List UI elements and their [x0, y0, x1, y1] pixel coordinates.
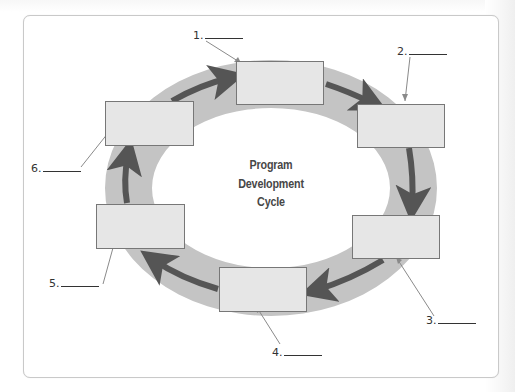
cycle-title-line-3: Cycle: [215, 193, 327, 212]
stage-label-3: 3.: [426, 314, 476, 327]
answer-blank-6[interactable]: [43, 162, 81, 172]
leader-line-1: [206, 41, 241, 63]
answer-blank-3[interactable]: [438, 314, 476, 324]
stage-label-4: 4.: [272, 346, 322, 359]
stage-label-6: 6.: [31, 162, 81, 175]
stage-number-2: 2.: [397, 45, 408, 58]
stage-label-2: 2.: [397, 45, 447, 58]
stage-box-2[interactable]: [357, 104, 445, 148]
stage-box-3[interactable]: [352, 215, 440, 259]
stage-number-3: 3.: [426, 314, 437, 327]
answer-blank-4[interactable]: [284, 346, 322, 356]
stage-number-5: 5.: [49, 277, 60, 290]
answer-blank-5[interactable]: [61, 277, 99, 287]
cycle-title-line-1: Program: [215, 156, 327, 175]
stage-label-1: 1.: [193, 29, 243, 42]
stage-number-1: 1.: [193, 29, 204, 42]
stage-box-4[interactable]: [219, 267, 307, 312]
stage-box-1[interactable]: [236, 61, 324, 105]
answer-blank-2[interactable]: [409, 45, 447, 55]
cycle-title: Program Development Cycle: [215, 156, 327, 212]
stage-box-5[interactable]: [96, 204, 185, 249]
stage-box-6[interactable]: [105, 101, 194, 146]
flow-arrow-2-to-3: [409, 148, 413, 205]
stage-number-4: 4.: [272, 346, 283, 359]
stage-number-6: 6.: [31, 162, 42, 175]
leader-line-3: [396, 257, 434, 316]
stage-label-5: 5.: [49, 277, 99, 290]
flow-arrow-5-to-6: [125, 155, 128, 203]
leader-arrowhead-2: [402, 94, 408, 101]
cycle-title-line-2: Development: [215, 175, 327, 194]
answer-blank-1[interactable]: [205, 29, 243, 39]
